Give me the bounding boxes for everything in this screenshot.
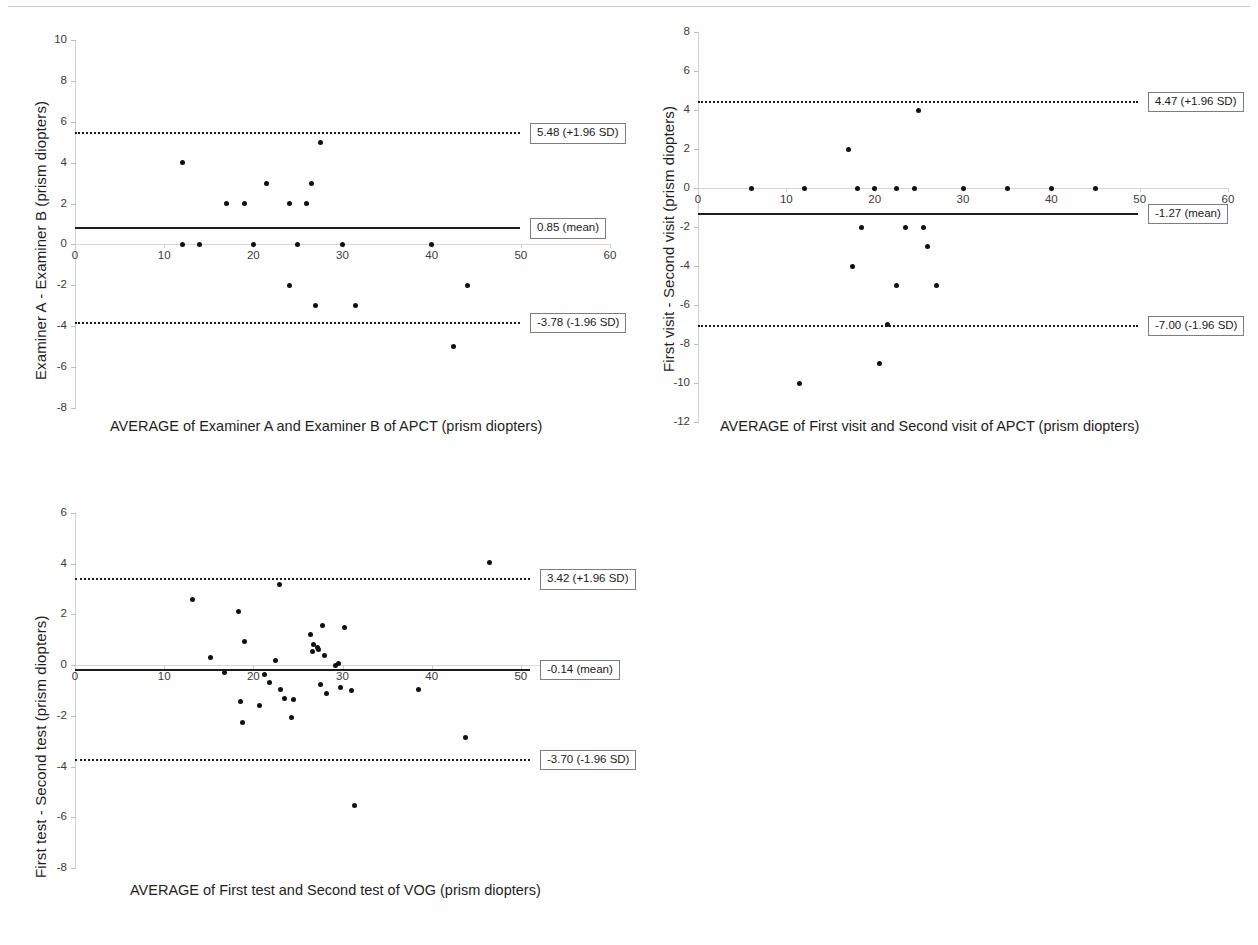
data-point	[894, 186, 899, 191]
x-axis-tick-label: 50	[501, 249, 541, 261]
x-axis-tick-label: 40	[412, 249, 452, 261]
reference-line-upper-sd	[698, 101, 1138, 103]
y-axis-tick	[71, 408, 76, 409]
y-axis-tick-label: -6	[37, 360, 67, 372]
x-axis-tick-label: 20	[855, 193, 895, 205]
x-axis-tick-label: 40	[1031, 193, 1071, 205]
y-axis-tick-label: -8	[660, 337, 690, 349]
y-axis-tick	[71, 367, 76, 368]
reference-line-upper-sd	[75, 132, 520, 134]
y-axis-tick-label: -6	[660, 298, 690, 310]
y-axis-tick-label: -4	[37, 319, 67, 331]
y-axis-tick	[694, 32, 699, 33]
reference-label-mean: 0.85 (mean)	[530, 218, 606, 239]
data-point	[242, 201, 247, 206]
data-point	[338, 685, 343, 690]
data-point	[309, 181, 314, 186]
page-top-divider	[8, 6, 1250, 7]
data-point	[859, 225, 864, 230]
y-axis-tick-label: 10	[37, 33, 67, 45]
y-axis-tick	[694, 383, 699, 384]
x-axis-tick-label: 30	[943, 193, 983, 205]
data-point	[324, 691, 329, 696]
data-point	[925, 244, 930, 249]
data-point	[190, 597, 195, 602]
data-point	[222, 670, 227, 675]
data-point	[304, 201, 309, 206]
x-axis-tick-label: 30	[323, 670, 363, 682]
data-point	[310, 649, 315, 654]
chart-panel-test-vog: First test - Second test (prism diopters…	[0, 490, 630, 945]
y-axis-tick	[694, 71, 699, 72]
y-axis-tick-label: -8	[37, 861, 67, 873]
y-axis-tick-label: 4	[660, 103, 690, 115]
x-axis-tick-label: 20	[233, 249, 273, 261]
y-axis-tick	[71, 40, 76, 41]
data-point	[487, 560, 492, 565]
data-point	[251, 242, 256, 247]
x-axis-tick-label: 10	[144, 670, 184, 682]
data-point	[273, 658, 278, 663]
y-axis-tick	[71, 81, 76, 82]
y-axis-tick-label: -4	[37, 760, 67, 772]
data-point	[308, 632, 313, 637]
data-point	[295, 242, 300, 247]
reference-label-mean: -0.14 (mean)	[540, 660, 620, 681]
reference-line-mean	[75, 669, 530, 671]
y-axis-tick-label: -2	[37, 709, 67, 721]
y-axis-tick	[71, 716, 76, 717]
reference-line-lower-sd	[75, 759, 530, 761]
y-axis-tick	[71, 614, 76, 615]
y-axis-tick	[694, 305, 699, 306]
plot-area-test-vog: -8-6-4-2024601020304050603.42 (+1.96 SD)…	[75, 513, 610, 868]
x-axis-tick-label: 10	[144, 249, 184, 261]
x-axis-tick-label: 50	[501, 670, 541, 682]
y-axis-tick-label: 2	[660, 142, 690, 154]
data-point	[850, 264, 855, 269]
data-point	[921, 225, 926, 230]
data-point	[855, 186, 860, 191]
x-axis-tick-label: 0	[55, 670, 95, 682]
x-axis-tick	[1228, 188, 1229, 192]
reference-label-upper-sd: 3.42 (+1.96 SD)	[540, 569, 636, 590]
data-point	[961, 186, 966, 191]
data-point	[352, 803, 357, 808]
y-axis-tick	[71, 564, 76, 565]
y-axis-tick-label: 6	[660, 64, 690, 76]
x-axis-tick-label: 40	[412, 670, 452, 682]
x-axis-caption-examiner-apct: AVERAGE of Examiner A and Examiner B of …	[110, 418, 542, 434]
data-point	[291, 697, 296, 702]
x-axis-tick-label: 60	[590, 249, 630, 261]
data-point	[236, 609, 241, 614]
y-axis-tick	[71, 204, 76, 205]
data-point	[318, 140, 323, 145]
data-point	[797, 381, 802, 386]
data-point	[349, 688, 354, 693]
y-axis-tick	[694, 227, 699, 228]
y-axis-tick	[71, 767, 76, 768]
x-axis-tick	[698, 188, 699, 192]
y-axis-tick	[71, 326, 76, 327]
x-axis-caption-test-vog: AVERAGE of First test and Second test of…	[130, 882, 541, 898]
data-point	[278, 687, 283, 692]
data-point	[238, 699, 243, 704]
y-axis-tick-label: -2	[37, 278, 67, 290]
reference-label-mean: -1.27 (mean)	[1148, 204, 1228, 225]
data-point	[287, 283, 292, 288]
data-point	[287, 201, 292, 206]
data-point	[322, 653, 327, 658]
x-axis-tick-label: 0	[55, 249, 95, 261]
y-axis-tick	[71, 817, 76, 818]
y-axis-tick	[694, 422, 699, 423]
data-point	[340, 242, 345, 247]
data-point	[802, 186, 807, 191]
x-axis-caption-visit-apct: AVERAGE of First visit and Second visit …	[720, 418, 1139, 434]
y-axis-tick	[694, 344, 699, 345]
data-point	[877, 361, 882, 366]
y-axis-tick-label: -4	[660, 259, 690, 271]
data-point	[282, 696, 287, 701]
data-point	[1049, 186, 1054, 191]
reference-label-upper-sd: 5.48 (+1.96 SD)	[530, 123, 626, 144]
data-point	[451, 344, 456, 349]
y-axis-tick-label: 4	[37, 557, 67, 569]
